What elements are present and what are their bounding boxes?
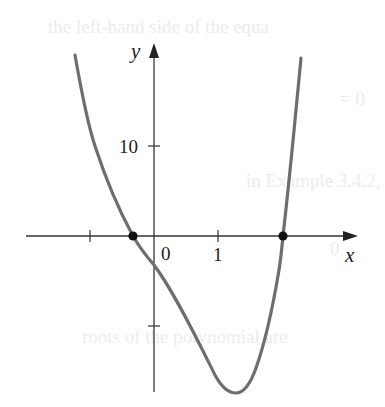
y-tick-label-10: 10 [119, 136, 138, 157]
function-graph: y x 0 1 10 [0, 0, 385, 407]
root-point-right [278, 231, 287, 240]
y-axis-label: y [129, 39, 141, 63]
y-axis [148, 43, 160, 392]
x-tick-label-1: 1 [213, 244, 223, 265]
x-axis-label: x [344, 243, 355, 267]
x-axis [26, 230, 358, 242]
function-curve [75, 55, 301, 393]
origin-label: 0 [161, 243, 171, 264]
root-point-left [128, 231, 137, 240]
x-axis-arrow-icon [343, 231, 358, 241]
y-axis-arrow-icon [149, 43, 159, 58]
